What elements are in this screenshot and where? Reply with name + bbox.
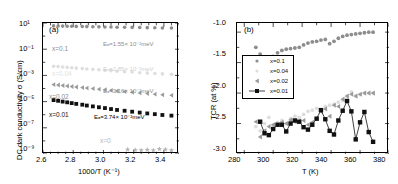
legend-item-x002[interactable]: x=0.02: [243, 76, 293, 86]
panel-a-annotation-ea-x01: Eₐ=1.55× 10⁻²meV: [103, 41, 154, 47]
panel-a-ytick-1: 10⁻¹: [19, 45, 34, 53]
panel-a-series-label-x004: x=0.04: [52, 71, 72, 78]
legend-item-x004[interactable]: x=0.04: [243, 66, 293, 76]
panel-a-series-label-x002: x=0.02: [49, 94, 69, 101]
panel-b-legend: x=0.1 x=0.04 x=0.02: [242, 55, 294, 99]
panel-a-tag: (a): [49, 26, 59, 34]
panel-b: TCR (at %) -1.0 -1.5 -2.0 -2.5 -3.0 (b) …: [199, 0, 398, 184]
panel-b-ytick-0: -1.0: [213, 19, 226, 27]
figure-root: DC dark conductivity σ (S/cm) 10¹ 10⁻¹ 1…: [0, 0, 398, 184]
panel-b-ytick-2: -2.0: [213, 82, 226, 90]
panel-a-ytick-4: 10⁻⁷: [19, 120, 34, 128]
panel-b-tag: (b): [244, 26, 254, 34]
legend-label-x001: x=0.01: [268, 88, 288, 94]
panel-b-xtick-4: 360: [344, 156, 357, 164]
panel-a-xtick-4: 3.4: [155, 156, 165, 164]
legend-marker-circle-light-icon: [246, 67, 268, 75]
panel-b-x-axis-title: T (K): [302, 168, 319, 176]
panel-b-xtick-1: 300: [257, 156, 270, 164]
panel-b-xtick-0: 280: [228, 156, 241, 164]
panel-a-ytick-5: 10⁻⁹: [19, 145, 35, 153]
panel-a-series-label-x001: x=0.01: [49, 112, 69, 119]
legend-marker-triangle-icon: [246, 77, 268, 85]
panel-b-xtick-5: 380: [373, 156, 386, 164]
panel-a-xtick-1: 2.8: [65, 156, 75, 164]
panel-a-x-axis-title: 1000/T (K⁻¹): [78, 168, 120, 176]
panel-b-xtick-2: 320: [286, 156, 299, 164]
panel-b-ytick-4: -3.0: [213, 145, 226, 153]
panel-b-ytick-1: -1.5: [213, 50, 226, 58]
panel-a-xtick-2: 3.0: [95, 156, 105, 164]
panel-a-ytick-3: 10⁻⁵: [19, 95, 34, 103]
panel-a-annotation-ea-x001: Eₐ=3.74× 10⁻²meV: [94, 114, 145, 120]
legend-marker-circle-icon: [246, 57, 268, 65]
panel-b-xtick-3: 340: [315, 156, 328, 164]
legend-marker-square-icon: [246, 87, 268, 95]
panel-a-xtick-3: 3.2: [125, 156, 135, 164]
panel-a-ytick-0: 10¹: [19, 20, 30, 28]
legend-label-x002: x=0.02: [268, 78, 288, 84]
panel-a-annotation-ea-x004: Eₐ=2.85× 10⁻²meV: [103, 66, 154, 72]
legend-item-x01[interactable]: x=0.1: [243, 56, 293, 66]
panel-a-series-label-x01: x=0.1: [52, 46, 68, 53]
panel-a-annotation-ea-x002: Eₐ=3.16× 10⁻²meV: [103, 88, 154, 94]
legend-label-x01: x=0.1: [268, 58, 285, 64]
panel-a-ytick-2: 10⁻³: [19, 70, 34, 78]
panel-b-ytick-3: -2.5: [213, 113, 226, 121]
legend-item-x001[interactable]: x=0.01: [243, 86, 293, 96]
legend-label-x004: x=0.04: [268, 68, 288, 74]
panel-a-series-label-x0: x=0: [100, 138, 111, 145]
panel-a: DC dark conductivity σ (S/cm) 10¹ 10⁻¹ 1…: [0, 0, 199, 184]
panel-a-xtick-0: 2.6: [36, 156, 46, 164]
